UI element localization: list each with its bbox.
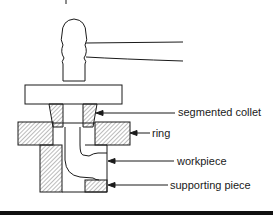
pressure-plate bbox=[25, 85, 122, 104]
leader-segmented-collet bbox=[96, 111, 175, 116]
label-ring: ring bbox=[152, 127, 170, 139]
leader-workpiece bbox=[108, 159, 174, 164]
die-body-left bbox=[40, 145, 62, 192]
label-supporting-piece: supporting piece bbox=[170, 179, 251, 191]
hammer-handle bbox=[86, 42, 183, 61]
supporting-piece bbox=[85, 180, 107, 192]
leader-ring bbox=[130, 131, 150, 136]
ring-right bbox=[95, 122, 130, 145]
bottom-border-bar bbox=[0, 211, 273, 215]
hammer-head bbox=[61, 19, 87, 81]
leader-supporting-piece bbox=[108, 183, 168, 188]
label-workpiece: workpiece bbox=[177, 155, 227, 167]
label-segmented-collet: segmented collet bbox=[178, 106, 261, 118]
ring-left bbox=[18, 122, 53, 145]
